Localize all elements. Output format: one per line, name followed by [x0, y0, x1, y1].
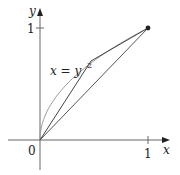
endpoint-dot: [146, 26, 151, 31]
x-axis: [8, 136, 170, 144]
curve-label: x = y: [50, 64, 81, 78]
x-tick-label: 1: [144, 147, 152, 161]
y-axis-arrow-icon: [37, 8, 43, 16]
y-axis: [36, 8, 44, 170]
diagram-figure: 0 1 1 x y x = y 2: [0, 0, 180, 175]
plot-canvas: 0 1 1 x y x = y 2: [0, 0, 180, 175]
y-tick-label: 1: [27, 22, 35, 36]
y-axis-label: y: [28, 4, 36, 18]
origin-label: 0: [28, 144, 36, 158]
curve-label-exponent: 2: [87, 61, 92, 70]
x-axis-label: x: [163, 143, 170, 157]
chord-line: [40, 28, 148, 140]
